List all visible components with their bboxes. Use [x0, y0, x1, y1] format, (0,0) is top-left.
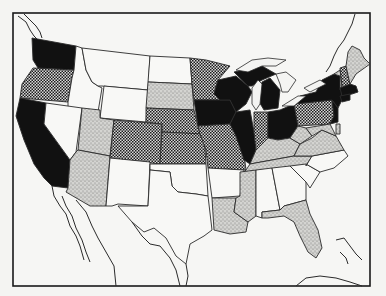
state-new-mexico	[106, 158, 150, 206]
us-choropleth-map	[0, 0, 386, 296]
state-south-dakota	[146, 82, 194, 110]
state-iowa	[194, 100, 236, 126]
state-wyoming	[100, 86, 148, 122]
state-arkansas	[208, 168, 244, 198]
state-north-dakota	[148, 56, 192, 84]
state-delaware	[336, 124, 340, 134]
state-pennsylvania	[294, 100, 334, 126]
state-kansas	[160, 132, 206, 164]
state-colorado	[110, 120, 162, 164]
